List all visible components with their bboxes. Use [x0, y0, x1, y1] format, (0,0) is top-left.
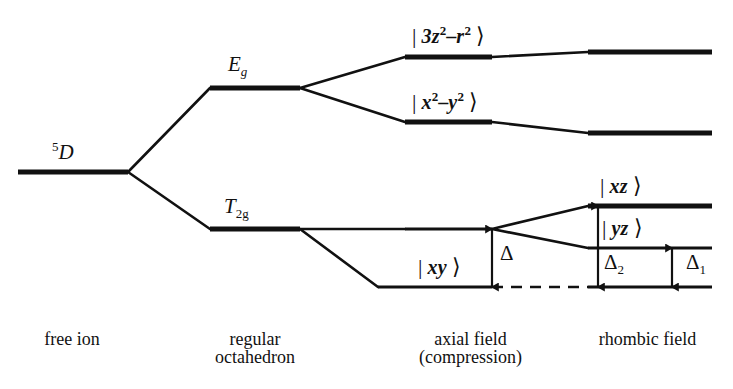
term-subscript-2g: 2g	[236, 206, 249, 221]
ket-orbital-xy: xy	[427, 256, 446, 278]
caption-line-1: regular	[230, 329, 281, 349]
delta-subscript: 2	[618, 262, 625, 277]
ket-bar-icon: |	[412, 23, 416, 48]
caption-regular-octahedron: regular octahedron	[195, 330, 315, 366]
caption-line-2: octahedron	[195, 348, 315, 366]
connector-free-to-Eg	[128, 88, 210, 172]
term-label-eg: Eg	[228, 54, 247, 78]
delta-symbol: Δ	[500, 241, 514, 265]
term-text-E: E	[228, 52, 241, 76]
connector-free-to-T2g	[128, 172, 210, 229]
term-text-T: T	[224, 194, 236, 218]
caption-free-ion: free ion	[12, 330, 132, 348]
connector-axial-t2g-to-xz	[492, 206, 588, 229]
caption-line-2: (compression)	[398, 348, 543, 366]
ket-exponent-2: 2	[457, 89, 464, 104]
caption-line-1: free ion	[44, 329, 99, 349]
delta-label-main: Δ	[500, 243, 514, 267]
ket-angle-icon: ⟩	[452, 254, 461, 279]
term-subscript-g: g	[241, 64, 248, 79]
caption-axial-field: axial field (compression)	[398, 330, 543, 366]
term-label-free-ion: 5D	[52, 140, 74, 163]
ket-angle-icon: ⟩	[634, 215, 643, 240]
caption-line-1: rhombic field	[599, 329, 696, 349]
ket-angle-icon: ⟩	[469, 89, 478, 114]
ket-orbital-xz: xz	[609, 175, 627, 197]
ket-minus: –	[438, 91, 448, 113]
delta-label-1: Δ1	[686, 252, 706, 276]
delta-subscript: 1	[700, 262, 707, 277]
ket-bar-icon: |	[600, 173, 604, 198]
energy-level-diagram: 5D Eg T2g | 3z2–r2 ⟩ | x2–y2 ⟩ | xy ⟩ | …	[0, 0, 733, 389]
delta-symbol: Δ	[686, 250, 700, 274]
connector-Eg-to-3z2	[300, 57, 405, 88]
ket-label-yz: | yz ⟩	[602, 217, 643, 239]
ket-exponent-2: 2	[464, 23, 471, 38]
connector-lines	[128, 52, 588, 287]
delta-symbol: Δ	[604, 250, 618, 274]
connector-Eg-to-x2y2	[300, 88, 405, 122]
ket-bar-icon: |	[418, 254, 422, 279]
ket-bar-icon: |	[412, 89, 416, 114]
term-label-t2g: T2g	[224, 196, 249, 220]
connector-x2y2-to-rhombic2	[492, 122, 588, 133]
ket-orbital-x: x	[421, 91, 431, 113]
ket-bar-icon: |	[602, 215, 606, 240]
delta-label-2: Δ2	[604, 252, 624, 276]
connector-3z2-to-rhombic1	[492, 52, 588, 57]
ket-angle-icon: ⟩	[633, 173, 642, 198]
ket-orbital-yz: yz	[611, 217, 628, 239]
ket-label-3z2-r2: | 3z2–r2 ⟩	[412, 24, 485, 47]
ket-label-x2-y2: | x2–y2 ⟩	[412, 90, 478, 113]
ket-orbital-3z: 3z	[421, 25, 439, 47]
caption-line-1: axial field	[434, 329, 506, 349]
caption-rhombic-field: rhombic field	[580, 330, 715, 348]
term-text-D: D	[59, 140, 74, 164]
ket-label-xy: | xy ⟩	[418, 256, 461, 278]
ket-minus: –	[446, 25, 456, 47]
ket-angle-icon: ⟩	[476, 23, 485, 48]
ket-label-xz: | xz ⟩	[600, 175, 642, 197]
connector-T2g-to-axial-xy	[300, 229, 378, 287]
